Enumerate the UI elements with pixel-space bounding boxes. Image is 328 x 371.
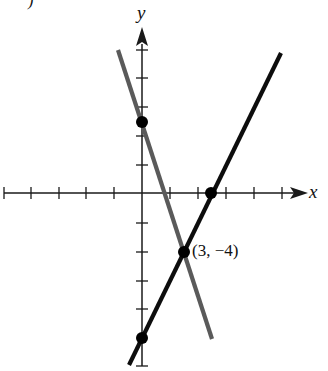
point-y-intercept-black [136, 332, 148, 344]
y-axis [136, 27, 148, 366]
intersection-label: (3, −4) [192, 241, 238, 261]
y-axis-arrow-icon [136, 27, 148, 46]
point-x-intercept-black [205, 187, 217, 199]
y-axis-label: y [137, 2, 145, 24]
x-axis [4, 187, 308, 199]
x-axis-label: x [309, 181, 317, 203]
point-intersection [178, 246, 190, 258]
point-y-intercept-gray [136, 116, 148, 128]
coordinate-graph [0, 0, 328, 371]
